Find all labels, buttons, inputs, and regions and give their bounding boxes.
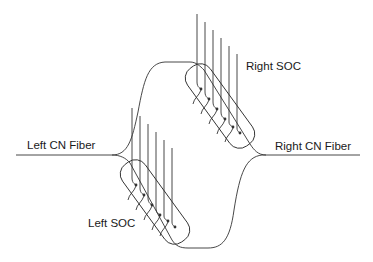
left-cn-fiber-label: Left CN Fiber bbox=[27, 139, 95, 151]
right-soc-body bbox=[180, 59, 259, 153]
lower-arm-path bbox=[112, 155, 262, 248]
diagram-canvas: Left CN Fiber Right CN Fiber Right SOC L… bbox=[0, 0, 373, 262]
coupling-points bbox=[135, 88, 242, 229]
right-soc-label: Right SOC bbox=[246, 60, 301, 72]
right-cn-fiber-label: Right CN Fiber bbox=[275, 140, 351, 152]
fiber-diagram bbox=[0, 0, 373, 262]
upper-arm-path bbox=[112, 62, 266, 155]
left-soc-body bbox=[115, 155, 194, 249]
left-soc-label: Left SOC bbox=[88, 217, 135, 229]
